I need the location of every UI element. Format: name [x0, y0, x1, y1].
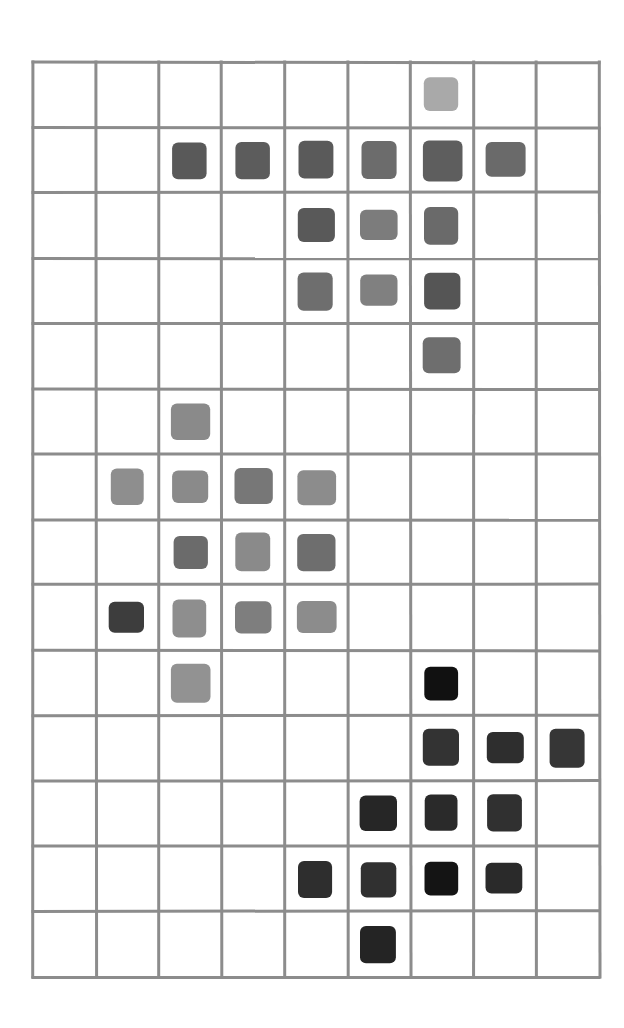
shaded-cell-r12-c5 [361, 862, 397, 897]
shaded-cell-r8-c4 [297, 601, 337, 633]
grid-line-horizontal-10 [33, 715, 599, 716]
shaded-cell-r11-c7 [487, 794, 522, 831]
shaded-cell-r4-c6 [423, 337, 461, 373]
grid-line-horizontal-9 [33, 650, 599, 651]
shaded-cell-r3-c6 [424, 273, 460, 310]
shaded-cell-r7-c2 [174, 536, 208, 569]
shaded-cell-r3-c5 [360, 275, 397, 306]
shaded-cell-r12-c4 [298, 861, 332, 898]
shaded-cell-r12-c7 [486, 863, 523, 894]
pixel-grid [33, 62, 599, 979]
shaded-cell-r1-c6 [423, 141, 463, 182]
shaded-cell-r6-c2 [172, 471, 208, 503]
grid-line-horizontal-1 [33, 128, 599, 129]
grid-line-horizontal-2 [33, 192, 599, 193]
shaded-cell-r11-c6 [425, 795, 458, 831]
grid-lines-layer [33, 62, 600, 978]
grid-line-horizontal-11 [33, 781, 599, 782]
shaded-cell-r12-c6 [425, 862, 459, 896]
grid-line-horizontal-0 [33, 62, 599, 63]
shaded-cell-r8-c2 [173, 600, 207, 638]
shaded-cell-r6-c3 [235, 468, 273, 504]
shaded-cell-r8-c3 [235, 601, 272, 633]
shaded-cell-r6-c4 [297, 470, 336, 505]
shaded-cell-r7-c3 [235, 533, 270, 572]
grid-canvas [33, 62, 599, 979]
shaded-cell-r10-c8 [550, 729, 585, 768]
shaded-cell-r2-c4 [298, 208, 335, 242]
shaded-cell-r10-c6 [423, 729, 459, 766]
shaded-cell-r11-c5 [360, 795, 397, 831]
shaded-cell-r1-c7 [486, 142, 526, 177]
shaded-cell-r9-c6 [424, 667, 458, 701]
shaded-cell-r0-c6 [424, 77, 458, 111]
shaded-cell-r3-c4 [298, 273, 333, 311]
shaded-cell-r2-c5 [360, 210, 398, 240]
grid-line-horizontal-13 [33, 911, 599, 912]
shaded-cell-r7-c4 [297, 534, 335, 571]
shaded-cell-r6-c1 [111, 468, 144, 505]
shaded-cell-r10-c7 [487, 732, 524, 763]
shaded-cell-r8-c1 [109, 602, 144, 633]
shaded-cell-r9-c2 [171, 664, 211, 703]
shaded-cell-r1-c2 [172, 142, 207, 179]
shaded-cell-r2-c6 [424, 207, 458, 245]
shaded-cell-r13-c5 [360, 926, 396, 963]
shaded-cell-r5-c2 [171, 403, 210, 440]
shaded-cell-r1-c3 [235, 142, 270, 179]
shaded-cell-r1-c4 [299, 141, 334, 179]
shaded-cell-r1-c5 [362, 141, 397, 179]
